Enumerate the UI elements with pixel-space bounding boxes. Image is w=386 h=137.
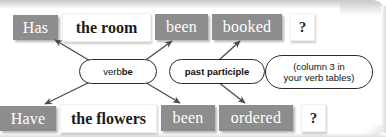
- page-corner-top-right: [340, 0, 386, 16]
- aux-verb-has: Has: [13, 15, 58, 40]
- question-mark-top: ?: [290, 13, 315, 41]
- callout-verb-be-plain: verb: [103, 66, 121, 77]
- participle-ordered: ordered: [219, 105, 293, 131]
- been-top: been: [155, 14, 208, 40]
- diagram-canvas: Has the room been booked ? Have the flow…: [0, 0, 386, 137]
- page-edge-top: [0, 0, 386, 9]
- question-mark-bottom: ?: [301, 104, 326, 132]
- callout-verb-tables-line2: your verb tables): [284, 72, 355, 83]
- been-bottom: been: [161, 105, 215, 131]
- subject-the-flowers: the flowers: [60, 104, 157, 133]
- page-edge-right: [381, 6, 386, 137]
- aux-verb-have: Have: [0, 106, 56, 131]
- callout-verb-be: verb be: [79, 59, 157, 84]
- callout-verb-be-bold: be: [122, 66, 133, 77]
- page-edge-bottom: [0, 133, 386, 137]
- callout-verb-tables: (column 3 in your verb tables): [265, 55, 373, 89]
- callout-past-participle-label: past participle: [185, 66, 249, 77]
- participle-booked: booked: [212, 14, 282, 40]
- callout-verb-tables-line1: (column 3 in: [293, 61, 345, 72]
- subject-the-room: the room: [62, 13, 151, 42]
- callout-past-participle: past participle: [169, 59, 265, 84]
